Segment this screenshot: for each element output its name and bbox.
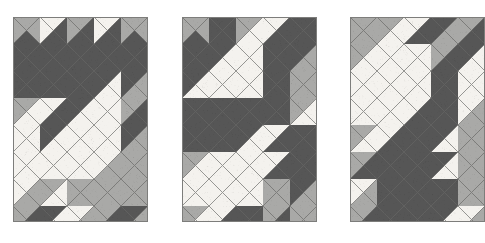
tile-panel (182, 17, 317, 222)
tile-grid (350, 17, 485, 222)
tile-panel (350, 17, 485, 222)
tile-pattern-figure (0, 0, 485, 243)
tile-grid (182, 17, 317, 222)
tile-grid (13, 17, 148, 222)
tile-panel (13, 17, 148, 222)
